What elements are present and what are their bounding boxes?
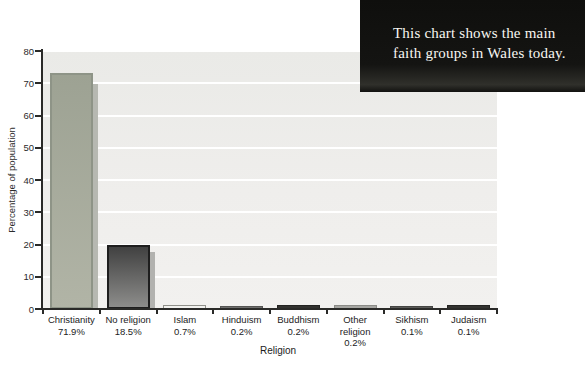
info-box: This chart shows the main faith groups i… bbox=[360, 0, 585, 92]
category-name: Judaism bbox=[434, 314, 504, 326]
y-tick-40 bbox=[35, 179, 41, 181]
category-label-judaism: Judaism0.1% bbox=[434, 314, 504, 337]
gridline-30 bbox=[43, 211, 497, 213]
info-box-text: This chart shows the main faith groups i… bbox=[393, 24, 571, 63]
category-value: 0.1% bbox=[434, 326, 504, 338]
gridline-50 bbox=[43, 147, 497, 149]
y-tick-80 bbox=[35, 50, 41, 52]
y-tick-label-80: 80 bbox=[6, 46, 34, 57]
info-box-line-2: faith groups in Wales today. bbox=[393, 44, 571, 64]
y-tick-20 bbox=[35, 244, 41, 246]
gridline-40 bbox=[43, 179, 497, 181]
y-tick-0 bbox=[35, 308, 41, 310]
y-tick-70 bbox=[35, 82, 41, 84]
y-axis-title: Percentage of population bbox=[6, 127, 17, 233]
y-tick-label-60: 60 bbox=[6, 110, 34, 121]
y-tick-label-10: 10 bbox=[6, 271, 34, 282]
gridline-60 bbox=[43, 115, 497, 117]
x-axis-title: Religion bbox=[43, 345, 513, 356]
y-tick-label-0: 0 bbox=[6, 304, 34, 315]
y-axis-line bbox=[41, 49, 43, 310]
screenshot-canvas: 01020304050607080 Percentage of populati… bbox=[0, 0, 585, 373]
y-tick-60 bbox=[35, 115, 41, 117]
y-tick-label-70: 70 bbox=[6, 78, 34, 89]
y-tick-30 bbox=[35, 211, 41, 213]
y-tick-10 bbox=[35, 276, 41, 278]
y-tick-50 bbox=[35, 147, 41, 149]
y-tick-label-20: 20 bbox=[6, 239, 34, 250]
bar-no-religion bbox=[107, 245, 150, 309]
bar-christianity bbox=[50, 73, 93, 309]
info-box-line-1: This chart shows the main bbox=[393, 24, 571, 44]
